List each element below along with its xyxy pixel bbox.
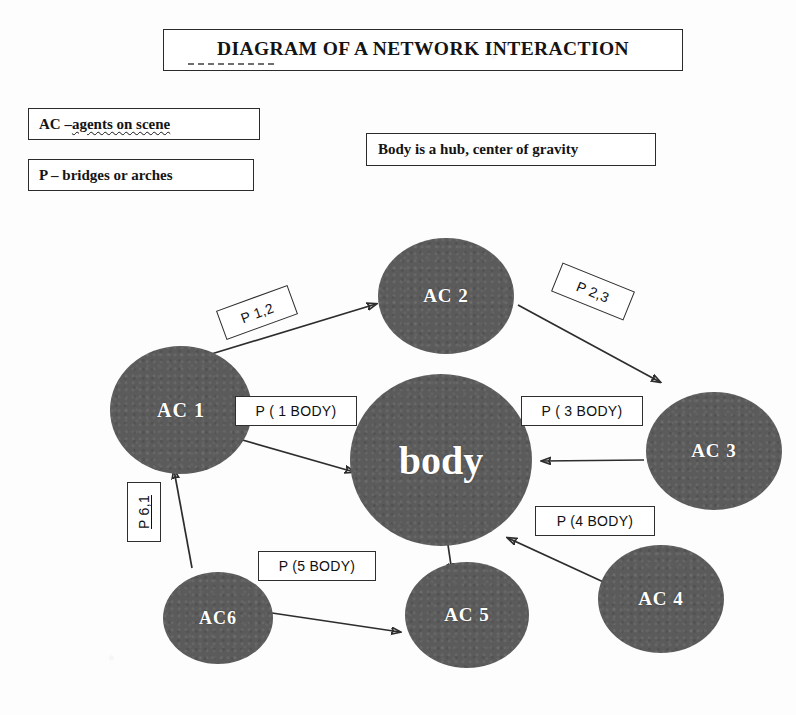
edge-ac4-to-body — [508, 538, 610, 585]
node-ac6[interactable]: AC6 — [163, 572, 273, 664]
legend-ac-term: agents on scene — [72, 116, 170, 133]
title-underline-mark — [188, 63, 274, 65]
edge-label-p23: P 2,3 — [551, 263, 635, 321]
node-ac5[interactable]: AC 5 — [405, 562, 529, 668]
legend-ac-definition: AC – agents on scene — [28, 108, 260, 140]
legend-p-definition: P – bridges or arches — [28, 159, 254, 191]
edge-ac3-to-body — [542, 460, 644, 461]
edge-label-p12: P 1,2 — [216, 285, 298, 340]
node-body[interactable]: body — [350, 374, 532, 546]
edge-label-p61: P 6,1 — [127, 482, 161, 542]
node-ac3[interactable]: AC 3 — [646, 392, 782, 510]
edge-label-p4body: P (4 BODY) — [535, 506, 655, 536]
diagram-canvas: DIAGRAM OF A NETWORK INTERACTION AC – ag… — [0, 0, 796, 715]
edge-ac2-to-ac3 — [518, 305, 660, 382]
edge-ac6-to-ac5 — [272, 613, 400, 632]
edge-label-p1body: P ( 1 BODY) — [235, 396, 357, 426]
node-ac4[interactable]: AC 4 — [598, 545, 724, 653]
node-ac2[interactable]: AC 2 — [378, 238, 514, 354]
edge-label-p61-text: P 6,1 — [136, 495, 152, 529]
legend-ac-prefix: AC – — [39, 116, 72, 133]
edge-label-p5body: P (5 BODY) — [258, 551, 376, 581]
edge-label-p3body: P ( 3 BODY) — [521, 396, 643, 426]
edge-ac1-to-body — [232, 437, 354, 472]
edge-ac6-to-ac1 — [174, 470, 192, 568]
node-ac1[interactable]: AC 1 — [110, 346, 252, 474]
legend-body-note: Body is a hub, center of gravity — [366, 133, 656, 166]
